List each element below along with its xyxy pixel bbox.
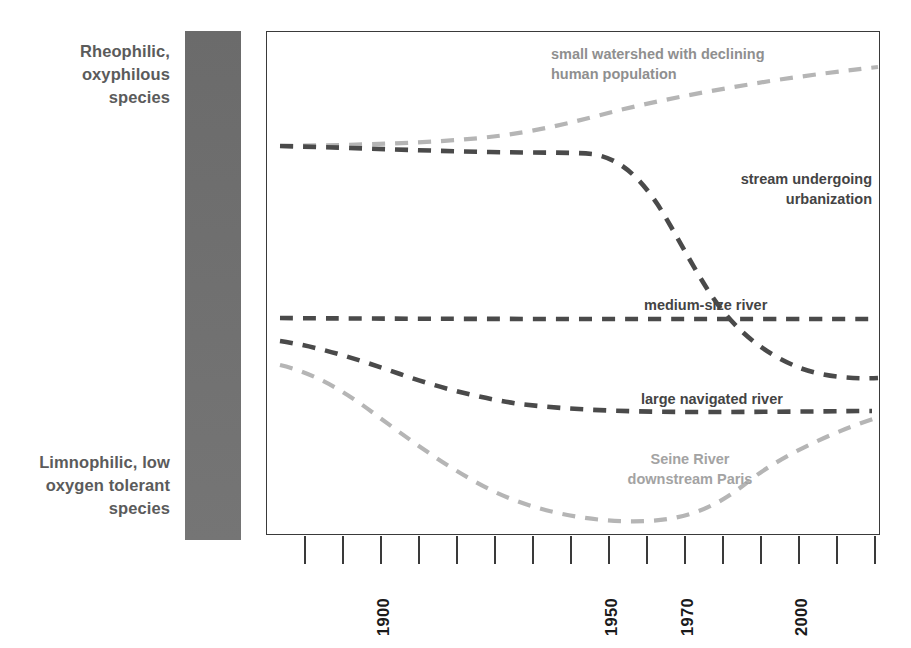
x-axis-tick xyxy=(456,536,458,564)
x-axis-tick xyxy=(684,536,686,564)
x-axis-tick xyxy=(760,536,762,564)
x-axis-tick xyxy=(342,536,344,564)
x-axis-tick xyxy=(418,536,420,564)
x-axis-tick xyxy=(874,536,876,564)
x-axis-year-label: 1950 xyxy=(602,598,621,636)
x-axis-tick xyxy=(304,536,306,564)
x-axis-year-label: 2000 xyxy=(792,598,811,636)
x-axis-tick xyxy=(646,536,648,564)
chart-canvas: Rheophilic, oxyphilous species Limnophil… xyxy=(0,0,911,648)
x-axis: 1900195019702000 xyxy=(0,0,911,648)
x-axis-year-label: 1970 xyxy=(678,598,697,636)
x-axis-tick xyxy=(608,536,610,564)
x-axis-year-label: 1900 xyxy=(374,598,393,636)
x-axis-tick xyxy=(532,536,534,564)
x-axis-tick xyxy=(380,536,382,564)
x-axis-tick xyxy=(494,536,496,564)
x-axis-tick xyxy=(570,536,572,564)
x-axis-tick xyxy=(798,536,800,564)
x-axis-tick xyxy=(722,536,724,564)
x-axis-tick xyxy=(836,536,838,564)
